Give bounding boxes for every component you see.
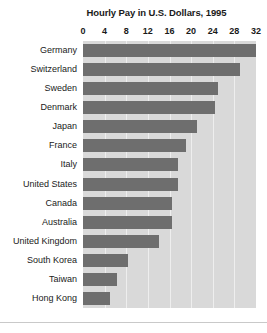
category-label: Japan xyxy=(0,121,79,131)
x-tick-label: 4 xyxy=(102,26,107,36)
bottom-divider xyxy=(0,322,267,323)
x-axis-ticks: 048121620242832 xyxy=(83,26,256,39)
x-tick-label: 28 xyxy=(229,26,239,36)
bar xyxy=(83,63,240,76)
x-tick-label: 20 xyxy=(186,26,196,36)
bar xyxy=(83,292,110,305)
bar xyxy=(83,178,178,191)
bar xyxy=(83,120,197,133)
category-label: Italy xyxy=(0,159,79,169)
category-label: United States xyxy=(0,179,79,189)
category-label: Australia xyxy=(0,217,79,227)
gridline xyxy=(213,41,214,308)
category-label: Taiwan xyxy=(0,274,79,284)
bar xyxy=(83,235,159,248)
gridline xyxy=(126,41,127,308)
category-label: Hong Kong xyxy=(0,293,79,303)
gridline xyxy=(191,41,192,308)
bar-chart: Hourly Pay in U.S. Dollars, 1995 0481216… xyxy=(0,0,267,333)
category-label: France xyxy=(0,140,79,150)
category-label: South Korea xyxy=(0,255,79,265)
x-tick-label: 0 xyxy=(80,26,85,36)
bar xyxy=(83,101,215,114)
category-label: Switzerland xyxy=(0,64,79,74)
category-label: Sweden xyxy=(0,83,79,93)
bar xyxy=(83,254,128,267)
x-tick-label: 24 xyxy=(208,26,218,36)
bar xyxy=(83,139,186,152)
category-label: Germany xyxy=(0,45,79,55)
x-tick-label: 12 xyxy=(143,26,153,36)
bar xyxy=(83,216,172,229)
x-tick-label: 32 xyxy=(251,26,261,36)
chart-title: Hourly Pay in U.S. Dollars, 1995 xyxy=(0,7,267,18)
x-tick-label: 16 xyxy=(164,26,174,36)
gridline xyxy=(234,41,235,308)
gridline xyxy=(170,41,171,308)
bar xyxy=(83,273,117,286)
plot-area xyxy=(83,41,256,308)
gridline xyxy=(105,41,106,308)
x-tick-label: 8 xyxy=(124,26,129,36)
bar xyxy=(83,82,218,95)
bar xyxy=(83,197,172,210)
bar xyxy=(83,44,256,57)
gridline xyxy=(148,41,149,308)
category-label: Denmark xyxy=(0,102,79,112)
category-label: United Kingdom xyxy=(0,236,79,246)
y-axis-category-labels: GermanySwitzerlandSwedenDenmarkJapanFran… xyxy=(0,41,79,308)
bar xyxy=(83,158,178,171)
category-label: Canada xyxy=(0,198,79,208)
